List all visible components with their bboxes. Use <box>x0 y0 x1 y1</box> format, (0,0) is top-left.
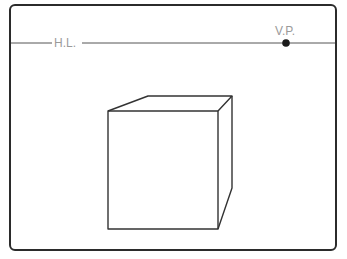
vanishing-point-dot <box>282 39 290 47</box>
vanishing-point-label: V.P. <box>274 25 296 37</box>
horizon-line-label: H.L. <box>53 37 77 49</box>
